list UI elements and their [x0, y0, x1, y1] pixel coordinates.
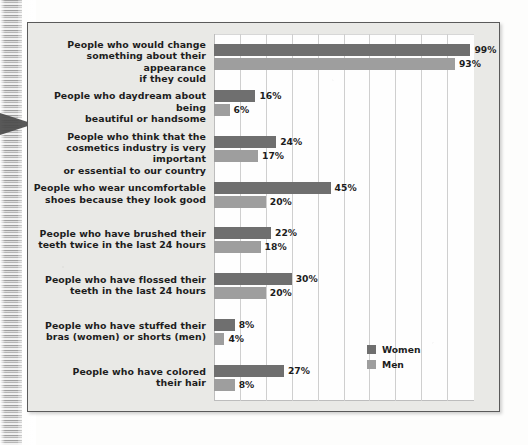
bar-value-label: 30%	[296, 273, 318, 285]
category-label-line: teeth in the last 24 hours	[32, 285, 206, 296]
legend-swatch-women	[367, 345, 376, 354]
bar-men	[214, 150, 258, 162]
category-label-line: their hair	[32, 377, 206, 388]
legend-swatch-men	[367, 360, 376, 369]
bar-value-label: 93%	[459, 58, 481, 70]
scanned-page: People who would changesomething about t…	[0, 0, 528, 445]
category-label-line: People who wear uncomfortable	[32, 182, 206, 193]
bar-women	[214, 90, 255, 102]
legend-item-men: Men	[367, 359, 420, 370]
bar-value-label: 20%	[270, 287, 292, 299]
bar-value-label: 24%	[280, 136, 302, 148]
bar-men	[214, 241, 261, 253]
bar-women	[214, 273, 292, 285]
category-label-line: shoes because they look good	[32, 194, 206, 205]
category-label: People who would changesomething about t…	[32, 39, 206, 85]
bar-value-label: 27%	[288, 365, 310, 377]
category-label: People who daydream about beingbeautiful…	[32, 90, 206, 124]
bar-women	[214, 319, 235, 331]
gridline	[292, 34, 293, 401]
bar-women	[214, 44, 470, 56]
legend-label: Women	[382, 344, 420, 355]
bar-value-label: 4%	[228, 333, 244, 345]
category-label: People who wear uncomfortableshoes becau…	[32, 182, 206, 205]
bar-value-label: 22%	[275, 227, 297, 239]
bar-value-label: 17%	[262, 150, 284, 162]
category-label-line: People who have stuffed their	[32, 320, 206, 331]
bar-men	[214, 333, 224, 345]
category-label-line: teeth twice in the last 24 hours	[32, 239, 206, 250]
category-label-line: People who would change	[32, 39, 206, 50]
legend-item-women: Women	[367, 344, 420, 355]
category-label: People who have brushed theirteeth twice…	[32, 228, 206, 251]
chart-frame: People who would changesomething about t…	[27, 22, 500, 412]
category-label-line: People who have flossed their	[32, 274, 206, 285]
chart-legend: WomenMen	[367, 344, 420, 374]
bar-value-label: 45%	[335, 182, 357, 194]
category-label: People who think that thecosmetics indus…	[32, 131, 206, 177]
page-edge-highlight	[0, 0, 5, 445]
category-label-line: cosmetics industry is very important	[32, 142, 206, 165]
bar-value-label: 8%	[239, 319, 255, 331]
bar-men	[214, 104, 230, 116]
bar-women	[214, 136, 276, 148]
gridline	[318, 34, 319, 401]
bar-value-label: 20%	[270, 196, 292, 208]
gridline	[421, 34, 422, 401]
bar-value-label: 8%	[239, 379, 255, 391]
bar-men	[214, 58, 455, 70]
category-label: People who have flossed theirteeth in th…	[32, 274, 206, 297]
category-label-line: if they could	[32, 73, 206, 84]
bar-women	[214, 227, 271, 239]
bar-women	[214, 182, 331, 194]
bar-value-label: 16%	[259, 90, 281, 102]
bar-women	[214, 365, 284, 377]
category-label-line: People who daydream about being	[32, 90, 206, 113]
category-label-line: People who have colored	[32, 366, 206, 377]
bar-men	[214, 379, 235, 391]
bar-value-label: 6%	[234, 104, 250, 116]
category-label-line: People who think that the	[32, 131, 206, 142]
gridline	[447, 34, 448, 401]
category-label-line: or essential to our country	[32, 165, 206, 176]
category-label-line: bras (women) or shorts (men)	[32, 331, 206, 342]
bar-men	[214, 287, 266, 299]
bar-value-label: 99%	[474, 44, 496, 56]
legend-label: Men	[382, 359, 404, 370]
gridline	[344, 34, 345, 401]
category-label-line: People who have brushed their	[32, 228, 206, 239]
category-label-line: beautiful or handsome	[32, 113, 206, 124]
bar-men	[214, 196, 266, 208]
bar-value-label: 18%	[265, 241, 287, 253]
category-label: People who have coloredtheir hair	[32, 366, 206, 389]
category-label: People who have stuffed theirbras (women…	[32, 320, 206, 343]
category-label-line: something about their appearance	[32, 50, 206, 73]
